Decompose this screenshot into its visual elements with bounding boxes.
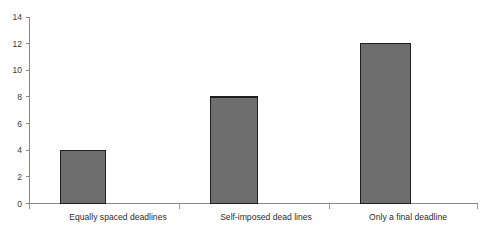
chart-canvas: 14 12 10 8 6 4 2 0 <box>0 0 494 240</box>
y-tick-label: 12 <box>13 39 23 49</box>
bar[interactable] <box>61 150 106 203</box>
category-label: Only a final deadline <box>369 212 447 222</box>
category-label: Equally spaced deadlines <box>69 212 166 222</box>
bar-chart: 14 12 10 8 6 4 2 0 <box>0 0 494 240</box>
y-tick-label: 6 <box>17 119 22 129</box>
x-axis-category-labels: Equally spaced deadlines Self-imposed de… <box>69 212 447 222</box>
y-tick-label: 14 <box>13 12 23 22</box>
bar[interactable] <box>211 97 258 204</box>
y-tick-label: 4 <box>17 145 22 155</box>
y-tick-label: 10 <box>13 65 23 75</box>
y-tick-label: 2 <box>17 172 22 182</box>
category-label: Self-imposed dead lines <box>220 212 312 222</box>
y-tick-label: 0 <box>17 199 22 209</box>
y-tick-label: 8 <box>17 92 22 102</box>
bar[interactable] <box>361 44 411 204</box>
